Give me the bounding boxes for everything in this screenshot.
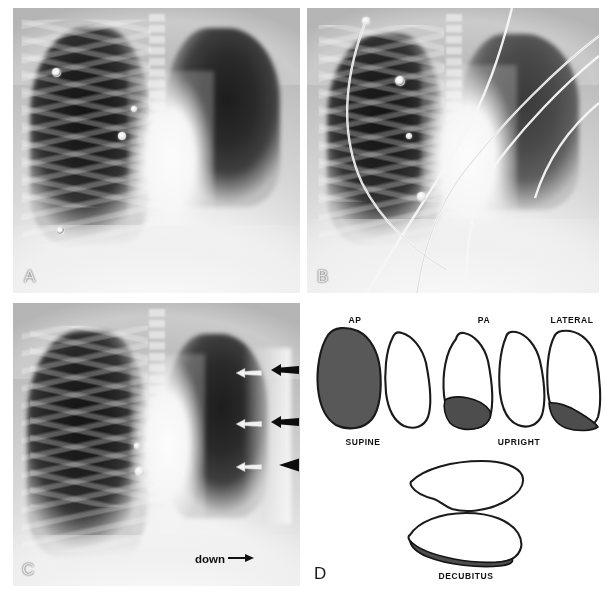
ecg-electrode-marker (131, 106, 137, 112)
ap-normal-lung-shape (385, 332, 430, 427)
xray-image-b (307, 8, 599, 293)
panel-a-supine-radiograph[interactable]: A (13, 8, 300, 293)
diaphragm-abdomen (307, 219, 599, 293)
right-arrow-icon (228, 553, 254, 566)
radiology-figure: A (0, 0, 606, 592)
mediastinum-heart-silhouette (131, 354, 206, 535)
xray-image-a (13, 8, 300, 293)
ecg-electrode-marker (134, 443, 140, 449)
white-arrow-lower (236, 461, 262, 473)
diaphragm-abdomen (13, 535, 300, 586)
diagram-label-lateral: LATERAL (550, 315, 593, 325)
decubitus-upper-lung-shape (411, 461, 524, 511)
diagram-label-pa: PA (478, 315, 490, 325)
diaphragm-abdomen (13, 225, 300, 293)
black-arrow-upper (271, 363, 299, 377)
panel-c-decubitus-radiograph[interactable]: down C (13, 303, 300, 586)
black-arrow-middle (271, 415, 299, 429)
panel-b-supine-radiograph-with-lines[interactable]: B (307, 8, 599, 293)
black-arrowhead-lower (279, 458, 299, 472)
white-arrow-upper (236, 367, 262, 379)
ecg-electrode-marker (395, 76, 405, 86)
diagram-label-supine: SUPINE (345, 437, 380, 447)
down-label-text: down (195, 553, 225, 565)
pa-normal-lung-shape (499, 332, 544, 427)
diagram-label-decubitus: DECUBITUS (439, 571, 494, 581)
ecg-electrode-marker (417, 192, 426, 201)
down-direction-annotation: down (195, 553, 254, 566)
diagram-label-upright: UPRIGHT (498, 437, 540, 447)
diagram-label-ap: AP (348, 315, 361, 325)
ecg-electrode-marker (52, 68, 61, 77)
white-arrow-middle (236, 418, 262, 430)
ecg-electrode-marker (118, 132, 126, 140)
pleural-fluid-schematic (306, 303, 606, 592)
mediastinum-heart-silhouette (128, 71, 214, 248)
xray-image-c (13, 303, 300, 586)
panel-d-schematic-diagram[interactable]: AP PA LATERAL SUPINE UPRIGHT DECUBITUS D (306, 303, 606, 592)
ap-affected-lung-shape (317, 328, 380, 428)
